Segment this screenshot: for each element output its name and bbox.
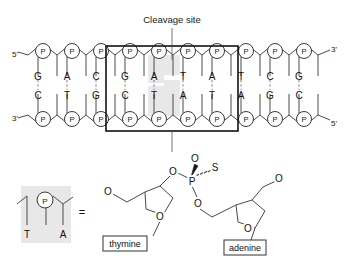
phosphate-label: P [272, 47, 277, 56]
base-letter: T [209, 90, 215, 101]
end-label-bottom-right: 5' [331, 119, 337, 128]
legend-phosphate-circle: P [37, 192, 53, 208]
phosphate-circle: P [36, 112, 51, 127]
oxygen-ring-left-label: O [156, 211, 164, 222]
phosphate-label: P [301, 47, 306, 56]
phosphate-circle: P [36, 44, 51, 59]
phosphate-label: P [69, 47, 74, 56]
base-letter: G [266, 90, 274, 101]
highlight-bottom-right [164, 80, 180, 116]
phosphate-circle: P [65, 44, 80, 59]
base-letter: C [34, 90, 41, 101]
phosphate-circle: P [268, 44, 283, 59]
phosphate-label: P [127, 115, 132, 124]
oxygen-ring-right-label: O [244, 223, 252, 234]
phosphate-label: P [127, 47, 132, 56]
legend-base-left: T [24, 229, 30, 240]
base-letter: G [295, 71, 303, 82]
base-letter: A [180, 90, 187, 101]
phosphate-circle: P [181, 112, 196, 127]
bond-ch2-left [127, 192, 145, 202]
base-letter: A [151, 71, 158, 82]
oxygen-terminal-right-label: O [275, 173, 283, 184]
phosphate-circle: P [210, 112, 225, 127]
phosphorus-label: P [189, 176, 196, 187]
phosphate-label: P [40, 115, 45, 124]
phosphate-circle: P [152, 112, 167, 127]
base-letter: T [151, 90, 157, 101]
bond-o-terminal-left [113, 194, 127, 202]
base-letter: A [209, 71, 216, 82]
cleavage-site-label: Cleavage site [143, 14, 201, 25]
legend-base-right: A [60, 229, 67, 240]
base-letter: C [92, 71, 99, 82]
base-letter: C [121, 90, 128, 101]
thymine-label: thymine [109, 239, 141, 249]
base-letter: T [64, 90, 70, 101]
base-letter: T [238, 71, 244, 82]
base-letter: A [64, 71, 71, 82]
bond-o-to-p-left [178, 173, 188, 178]
end-label-bottom-left: 3' [12, 114, 18, 123]
phosphate-label: P [40, 47, 45, 56]
adenine-label: adenine [229, 243, 261, 253]
base-letter: T [180, 71, 186, 82]
base-letter: G [34, 71, 42, 82]
phosphate-circle: P [123, 112, 138, 127]
bond-sugar-right-to-o-top [252, 187, 263, 200]
phosphate-label: P [98, 115, 103, 124]
bond-o-terminal-right [263, 181, 276, 187]
highlight-shading-group [148, 55, 180, 116]
end-label-top-left: 5' [12, 50, 18, 59]
phosphate-label: P [69, 115, 74, 124]
phosphate-circle: P [297, 112, 312, 127]
phosphate-circle: P [268, 112, 283, 127]
end-label-top-right: 3' [331, 45, 337, 54]
bond-o-down-to-ch2 [200, 209, 212, 217]
oxygen-bridge-down-label: O [194, 198, 202, 209]
phosphate-label: P [214, 115, 219, 124]
base-letter: G [121, 71, 129, 82]
base-letter: C [295, 90, 302, 101]
oxygen-bridge-left-label: O [169, 166, 177, 177]
phosphate-circle: P [239, 44, 254, 59]
sulfur-label: S [212, 162, 219, 173]
phosphate-circle: P [297, 44, 312, 59]
phosphate-label: P [301, 115, 306, 124]
phosphate-label: P [272, 115, 277, 124]
bond-ch2-to-sugar-right [212, 205, 236, 217]
legend-group: P T A = [17, 186, 85, 243]
bond-p-dashed-s [197, 170, 211, 176]
phosphate-label: P [185, 115, 190, 124]
base-letter: G [92, 90, 100, 101]
oxygen-terminal-left-label: O [104, 186, 112, 197]
phosphate-label: P [98, 47, 103, 56]
legend-equals-sign: = [79, 206, 85, 218]
phosphate-label: P [156, 115, 161, 124]
oxygen-double-bond-label: O [191, 153, 199, 164]
bond-p-to-o-down [192, 186, 197, 197]
phosphate-circle: P [239, 112, 254, 127]
dna-cleavage-figure: Cleavage site P P P P P P P P P P [0, 0, 344, 270]
base-letter: C [266, 71, 273, 82]
phosphate-label: P [243, 47, 248, 56]
phosphate-label: P [243, 115, 248, 124]
phosphate-circle: P [65, 112, 80, 127]
phosphate-label: P [156, 47, 161, 56]
phosphate-label: P [214, 47, 219, 56]
base-name-boxes: thymine adenine [103, 236, 266, 255]
phosphate-label: P [185, 47, 190, 56]
legend-phosphate-label: P [42, 197, 47, 206]
